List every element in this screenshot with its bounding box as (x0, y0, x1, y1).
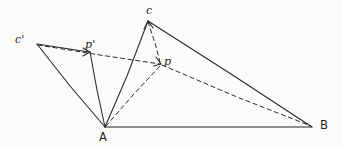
edge-A-C (105, 21, 148, 127)
edge-C-prime-P (38, 45, 160, 64)
vertex-label-B: B (320, 118, 328, 132)
vertex-label-c-prime: c' (15, 33, 25, 46)
vertex-label-p-prime: p' (85, 38, 95, 51)
figure-canvas (0, 0, 342, 148)
vertex-label-p: p (164, 55, 171, 68)
edge-A-C-prime (37, 44, 105, 127)
edge-P-B (162, 65, 311, 126)
geometry-figure: c' p' c p A B (0, 0, 342, 148)
vertex-label-A: A (99, 130, 107, 144)
edge-C-prime-P-prime (37, 44, 89, 52)
edge-A-P (106, 66, 160, 126)
vertex-label-c: c (146, 4, 152, 17)
edge-C-B (148, 21, 312, 127)
edge-A-P-prime (90, 52, 105, 127)
